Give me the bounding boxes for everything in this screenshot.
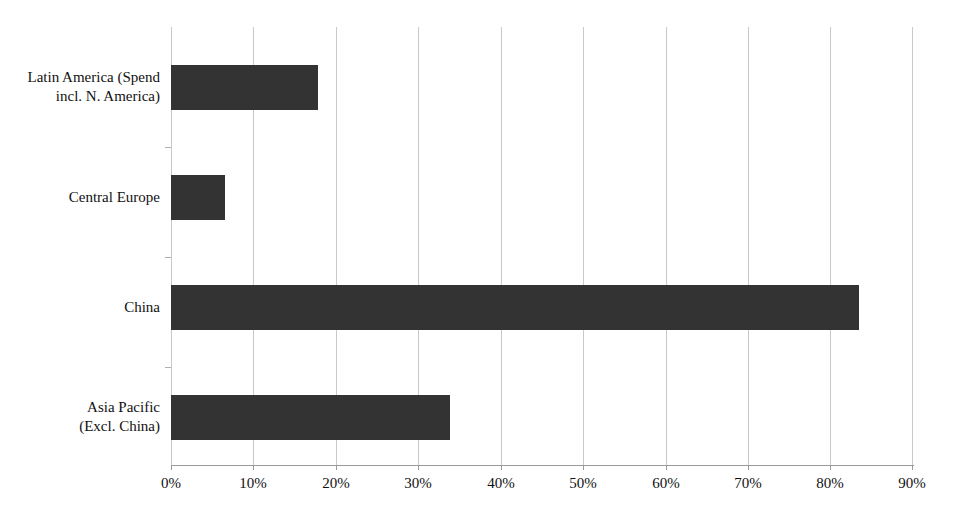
category-label-line: incl. N. America): [0, 87, 160, 106]
category-label-central-europe: Central Europe: [0, 188, 160, 207]
bar-chart: 0% 10% 20% 30% 40% 50% 60% 70% 80% 90% L…: [0, 0, 955, 531]
category-label-latin-america: Latin America (Spend incl. N. America): [0, 68, 160, 106]
category-label-asia-pacific: Asia Pacific (Excl. China): [0, 398, 160, 436]
category-label-line: (Excl. China): [0, 417, 160, 436]
y-axis-category-labels: Latin America (Spend incl. N. America) C…: [0, 0, 955, 531]
category-label-line: Central Europe: [0, 188, 160, 207]
category-label-line: Latin America (Spend: [0, 68, 160, 87]
category-label-line: Asia Pacific: [0, 398, 160, 417]
category-label-china: China: [0, 298, 160, 317]
category-label-line: China: [0, 298, 160, 317]
